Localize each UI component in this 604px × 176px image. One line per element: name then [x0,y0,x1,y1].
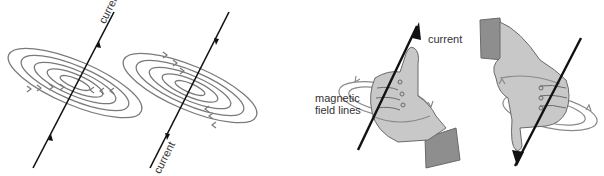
panel-hand-down [480,18,600,166]
panel-wire-up [0,35,150,132]
wire-2 [150,12,229,168]
arrow-down-icon [512,150,524,166]
label-magnetic: magnetic [315,92,360,104]
label-current-3: current [428,33,462,45]
field-arrow-icon [355,76,360,82]
field-lines [0,35,150,132]
diagram: current current current magnetic field l… [0,0,604,176]
label-field-lines: field lines [315,104,361,116]
hand [371,47,446,142]
